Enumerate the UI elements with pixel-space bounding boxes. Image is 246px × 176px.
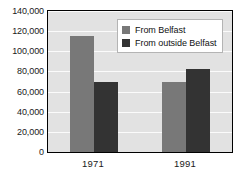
legend-swatch-icon [122,39,130,47]
bar-chart: 020,00040,00060,00080,000100,000120,0001… [0,0,246,176]
y-axis-tick-label: 120,000 [0,27,44,36]
y-axis-tick-label: 40,000 [0,107,44,116]
y-axis-tick-label: 0 [0,148,44,157]
bar [70,36,94,152]
x-axis-tick-label: 1991 [139,158,231,169]
legend-item-label: From outside Belfast [135,38,217,48]
chart-legend: From BelfastFrom outside Belfast [117,19,223,53]
x-axis-tick-label: 1971 [47,158,139,169]
y-axis-tick-label: 60,000 [0,87,44,96]
legend-item: From Belfast [122,23,217,36]
y-axis-tick-label: 140,000 [0,7,44,16]
y-axis-tick-label: 80,000 [0,67,44,76]
y-axis-tick-label: 100,000 [0,47,44,56]
x-axis: 19711991 [47,158,233,172]
bar [162,82,186,153]
y-axis-tick-label: 20,000 [0,127,44,136]
legend-swatch-icon [122,26,130,34]
bar [94,82,118,153]
legend-item-label: From Belfast [135,25,185,35]
bar [186,69,210,152]
legend-item: From outside Belfast [122,36,217,49]
y-axis: 020,00040,00060,00080,000100,000120,0001… [0,10,44,152]
